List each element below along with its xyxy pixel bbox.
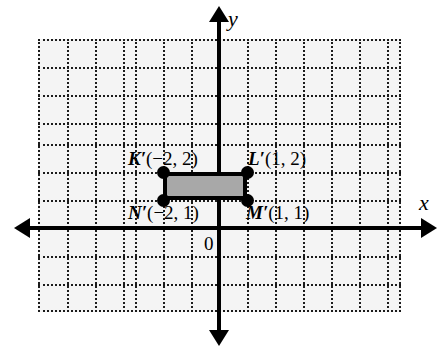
- grid-line-vertical: [38, 39, 40, 312]
- label-m-prime-coords: (1, 1): [268, 202, 309, 223]
- x-axis-left-arrowhead-icon: [14, 218, 30, 238]
- grid-line-vertical: [359, 39, 361, 312]
- label-l-prime: L′(1, 2): [248, 149, 306, 168]
- grid-line-vertical: [67, 39, 69, 312]
- grid-line-vertical: [95, 39, 97, 312]
- shaded-rectangle: [163, 172, 247, 200]
- x-axis-label: x: [419, 192, 429, 214]
- label-k-prime-coords: (−2, 2): [146, 148, 198, 169]
- y-axis-down-arrowhead-icon: [209, 330, 229, 346]
- label-l-prime-coords: (1, 2): [265, 148, 306, 169]
- origin-label: 0: [204, 234, 214, 253]
- x-axis-line: [26, 226, 424, 230]
- label-l-prime-name: L′: [248, 148, 265, 169]
- grid-line-vertical: [303, 39, 305, 312]
- coordinate-plane-figure: x y K′(−2, 2) L′(1, 2) N′(−2, 1) M′(1, 1…: [0, 0, 447, 352]
- grid-line-vertical: [387, 39, 389, 312]
- label-n-prime: N′(−2, 1): [128, 203, 199, 222]
- label-k-prime: K′(−2, 2): [128, 149, 198, 168]
- label-n-prime-name: N′: [128, 202, 147, 223]
- label-k-prime-name: K′: [128, 148, 146, 169]
- label-n-prime-coords: (−2, 1): [147, 202, 199, 223]
- y-axis-up-arrowhead-icon: [209, 6, 229, 22]
- y-axis-label: y: [228, 8, 238, 30]
- grid-line-vertical: [123, 39, 125, 312]
- grid-line-vertical: [135, 39, 137, 312]
- grid-line-vertical: [399, 39, 401, 312]
- label-m-prime-name: M′: [246, 202, 268, 223]
- x-axis-right-arrowhead-icon: [421, 218, 437, 238]
- grid-line-vertical: [275, 39, 277, 312]
- label-m-prime: M′(1, 1): [246, 203, 309, 222]
- grid-line-vertical: [331, 39, 333, 312]
